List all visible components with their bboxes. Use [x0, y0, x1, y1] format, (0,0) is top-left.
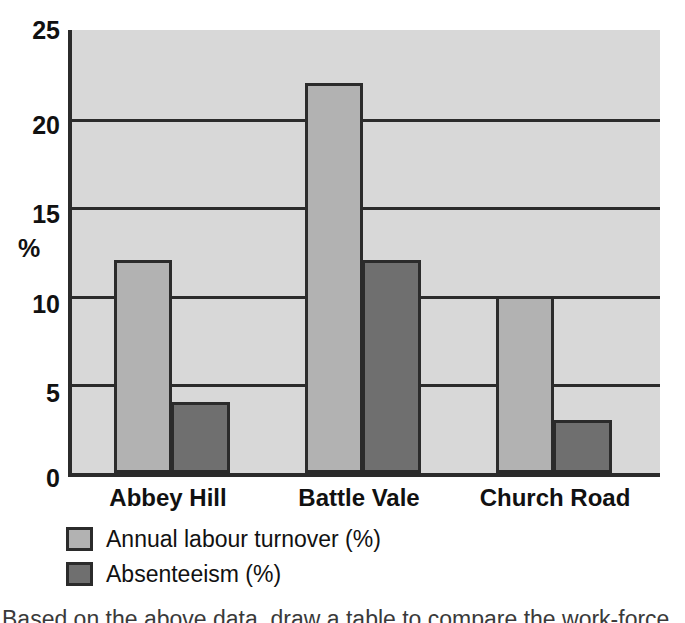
- y-tick-label: 15: [4, 202, 60, 227]
- legend-label: Absenteeism (%): [106, 561, 281, 587]
- bar-church-road-annual-labour-turnover: [496, 296, 554, 473]
- bar-abbey-hill-annual-labour-turnover: [114, 260, 172, 473]
- legend: Annual labour turnover (%) Absenteeism (…: [66, 524, 381, 594]
- bar-abbey-hill-absenteeism: [171, 402, 230, 473]
- legend-label: Annual labour turnover (%): [106, 526, 381, 552]
- y-axis-label: %: [18, 236, 40, 261]
- x-tick-label-church-road: Church Road: [460, 484, 650, 512]
- bar-battle-vale-annual-labour-turnover: [305, 83, 363, 473]
- y-axis-ticks: 25 20 15 10 5 0: [0, 0, 60, 623]
- bar-church-road-absenteeism: [553, 420, 612, 473]
- x-tick-label-battle-vale: Battle Vale: [269, 484, 449, 512]
- legend-item-annual-labour-turnover: Annual labour turnover (%): [66, 524, 381, 554]
- clipped-caption-text: Based on the above data, draw a table to…: [0, 606, 685, 623]
- bar-chart: 25 20 15 10 5 0 % Abbey Hill Battle Vale…: [0, 0, 685, 623]
- y-tick-label: 20: [4, 113, 60, 138]
- legend-swatch-icon: [66, 527, 93, 551]
- y-tick-label: 0: [4, 466, 60, 491]
- bars-layer: [72, 30, 660, 473]
- y-tick-label: 25: [4, 18, 60, 43]
- legend-item-absenteeism: Absenteeism (%): [66, 559, 381, 589]
- legend-swatch-icon: [66, 562, 93, 586]
- bar-battle-vale-absenteeism: [362, 260, 421, 473]
- x-tick-label-abbey-hill: Abbey Hill: [78, 484, 258, 512]
- clipped-caption: Based on the above data, draw a table to…: [0, 606, 685, 623]
- plot-area: [68, 30, 660, 477]
- y-tick-label: 5: [4, 381, 60, 406]
- y-tick-label: 10: [4, 292, 60, 317]
